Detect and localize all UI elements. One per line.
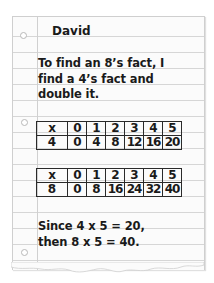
table-header-row: x 0 1 2 3 4 5 <box>37 169 182 183</box>
fours-table: x 0 1 2 3 4 5 4 0 4 8 12 16 20 <box>36 121 182 150</box>
table-row: 4 0 4 8 12 16 20 <box>37 136 182 150</box>
table-row: 8 0 8 16 24 32 40 <box>37 183 182 197</box>
binder-hole-icon <box>21 119 28 126</box>
intro-line: double it. <box>38 87 164 103</box>
table-header-row: x 0 1 2 3 4 5 <box>37 122 182 136</box>
binder-hole-icon <box>20 32 27 39</box>
intro-line: find a 4’s fact and <box>38 72 164 88</box>
binder-hole-icon <box>21 249 28 256</box>
intro-text: To find an 8’s fact, I find a 4’s fact a… <box>38 56 164 103</box>
conclusion-line: Since 4 x 5 = 20, <box>38 219 145 235</box>
intro-line: To find an 8’s fact, I <box>38 56 164 72</box>
eights-table: x 0 1 2 3 4 5 8 0 8 16 24 32 40 <box>36 168 182 197</box>
conclusion-text: Since 4 x 5 = 20, then 8 x 5 = 40. <box>38 219 145 250</box>
conclusion-line: then 8 x 5 = 40. <box>38 235 145 251</box>
student-name: David <box>52 24 91 38</box>
torn-edge <box>11 262 204 276</box>
